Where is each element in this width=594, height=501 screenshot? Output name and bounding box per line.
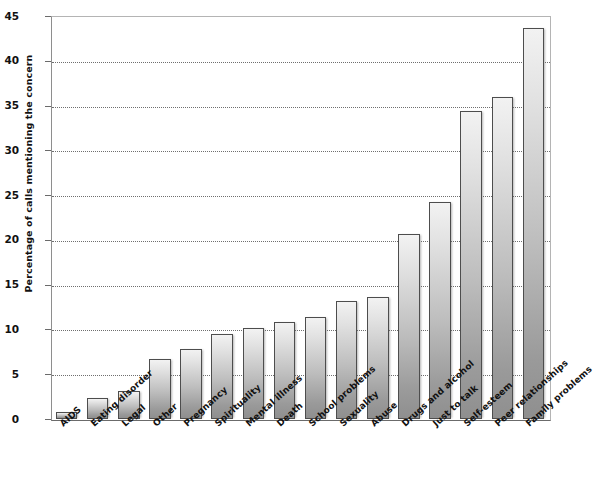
y-tick-mark-0 [45, 419, 51, 420]
y-tick-label-45: 45 [0, 11, 19, 22]
y-tick-label-40: 40 [0, 55, 19, 66]
y-tick-label-20: 20 [0, 234, 19, 245]
y-tick-label-15: 15 [0, 279, 19, 290]
bar [492, 97, 514, 419]
y-tick-label-30: 30 [0, 145, 19, 156]
bar [305, 317, 327, 419]
y-tick-label-5: 5 [0, 369, 19, 380]
y-axis-title: Percentage of calls mentioning the conce… [23, 49, 34, 299]
y-tick-label-25: 25 [0, 190, 19, 201]
bar [398, 234, 420, 419]
y-tick-label-35: 35 [0, 100, 19, 111]
y-tick-label-10: 10 [0, 324, 19, 335]
bar-series [51, 16, 549, 419]
bar [523, 28, 545, 419]
y-tick-label-0: 0 [0, 414, 19, 425]
x-axis-labels: AIDSEating disorderLegalOtherPregnancySp… [51, 421, 549, 501]
